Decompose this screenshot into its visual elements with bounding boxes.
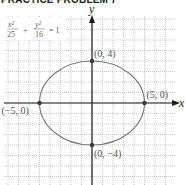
- data-point: [142, 101, 146, 105]
- equation: x² 25 + y² 16 = 1: [4, 18, 66, 40]
- ellipse-plot: xy x² 25 + y² 16 = 1 (0, 4)(5, 0)(−5, 0)…: [0, 0, 186, 185]
- points: (0, 4)(5, 0)(−5, 0)(0, −4): [2, 48, 169, 160]
- point-label: (5, 0): [147, 89, 169, 101]
- point-label: (0, 4): [94, 48, 116, 60]
- data-point: [90, 59, 94, 63]
- point-label: (0, −4): [94, 148, 121, 160]
- y-axis-label: y: [88, 2, 95, 16]
- equation-x-denominator: 25: [7, 30, 15, 39]
- equation-plus: +: [23, 26, 28, 35]
- point-label: (−5, 0): [2, 105, 29, 117]
- data-point: [37, 101, 41, 105]
- equation-rhs: = 1: [49, 26, 60, 35]
- x-axis-label: x: [178, 96, 185, 110]
- data-point: [90, 143, 94, 147]
- equation-y-denominator: 16: [35, 30, 43, 39]
- equation-x-numerator: x²: [7, 20, 15, 29]
- grid: [4, 16, 176, 185]
- equation-y-numerator: y²: [34, 20, 42, 29]
